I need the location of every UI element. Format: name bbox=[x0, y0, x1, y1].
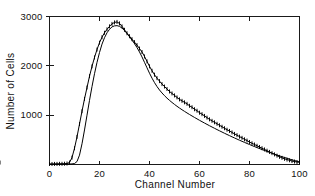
series-a-line bbox=[50, 22, 300, 164]
x-tick-label: 0 bbox=[47, 169, 52, 179]
x-tick-label: 60 bbox=[194, 169, 205, 179]
x-tick-label: 40 bbox=[144, 169, 155, 179]
y-tick-label: 3000 bbox=[0, 12, 43, 22]
x-tick-label: 80 bbox=[244, 169, 255, 179]
x-tick-label: 100 bbox=[291, 169, 307, 179]
x-tick-label: 20 bbox=[94, 169, 105, 179]
plot-frame bbox=[50, 17, 300, 165]
y-axis-title: Number of Cells bbox=[6, 53, 16, 130]
series-a-markers bbox=[0, 20, 300, 165]
chart-figure: 020406080100 100020003000 Channel Number… bbox=[0, 0, 315, 196]
x-axis-title: Channel Number bbox=[135, 180, 216, 190]
x-axis-ticks bbox=[50, 17, 300, 165]
